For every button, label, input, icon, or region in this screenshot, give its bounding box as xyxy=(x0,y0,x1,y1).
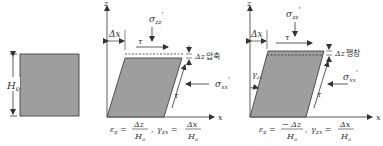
expansion-panel: z x Δx γzx σzz' τ Δz팽창 τ σxx' εz = xyxy=(246,0,381,142)
deformation-diagram: Ho z x Δx σzz' τ Δz압축 τ σxx' xyxy=(0,0,383,146)
dz-expansion-label: Δz팽창 xyxy=(334,48,361,58)
z-axis-label: z xyxy=(246,0,252,8)
svg-text:γzx =: γzx = xyxy=(311,125,332,135)
tau-side-label: τ xyxy=(174,91,179,100)
compressed-sheared-block xyxy=(107,58,182,117)
svg-text:γzx =: γzx = xyxy=(157,125,178,135)
gamma-angle-label: γzx xyxy=(252,70,262,80)
dx-label: Δx xyxy=(108,29,121,39)
svg-text:Ho: Ho xyxy=(286,132,297,142)
svg-text:Ho: Ho xyxy=(134,132,145,142)
tau-top-label: τ xyxy=(285,33,290,42)
gamma-angle-arc xyxy=(250,88,258,89)
svg-text:,: , xyxy=(151,125,154,134)
svg-text:Δx: Δx xyxy=(339,120,351,129)
original-block xyxy=(20,54,79,116)
dx-label: Δx xyxy=(250,29,263,39)
svg-text:,: , xyxy=(305,125,308,134)
svg-text:Ho: Ho xyxy=(340,132,351,142)
original-block-panel: Ho xyxy=(6,54,79,116)
svg-text:Δx: Δx xyxy=(186,120,198,129)
sigma-xx-label: σxx' xyxy=(215,76,230,90)
tau-top-label: τ xyxy=(138,37,143,46)
sigma-zz-label: σzz' xyxy=(149,11,163,25)
svg-text:εz =: εz = xyxy=(110,125,127,135)
tau-side-label: τ xyxy=(317,90,322,99)
x-axis-label: x xyxy=(218,113,223,122)
x-axis-label: x xyxy=(376,113,381,122)
sigma-xx-label: σxx' xyxy=(343,69,358,83)
sigma-zz-label: σzz' xyxy=(286,6,300,20)
compression-panel: z x Δx σzz' τ Δz압축 τ σxx' εz = Δz xyxy=(103,0,230,142)
dz-compression-label: Δz압축 xyxy=(194,52,220,61)
z-axis-label: z xyxy=(103,0,109,8)
svg-text:Ho: Ho xyxy=(187,132,198,142)
svg-text:εz =: εz = xyxy=(259,125,276,135)
compression-strain-formula: εz = Δz Ho , γzx = Δx Ho xyxy=(110,120,201,142)
svg-text:Δz: Δz xyxy=(133,120,145,129)
expanded-sheared-block xyxy=(250,51,324,117)
expansion-strain-formula: εz = − Δz Ho , γzx = Δx Ho xyxy=(259,120,354,142)
svg-text:− Δz: − Δz xyxy=(282,120,302,129)
